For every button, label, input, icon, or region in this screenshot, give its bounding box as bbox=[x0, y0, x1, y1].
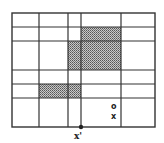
shaded-region-2 bbox=[68, 41, 121, 70]
shaded-region-3 bbox=[39, 84, 81, 98]
circle-marker-label: o bbox=[111, 102, 117, 111]
query-point-label: x' bbox=[74, 131, 82, 141]
shaded-region-1 bbox=[81, 27, 121, 41]
shaded-regions bbox=[39, 27, 121, 98]
query-point-icon bbox=[79, 125, 83, 129]
grid-diagram: x' o x bbox=[0, 0, 164, 143]
cross-marker-label: x bbox=[111, 112, 117, 121]
data-points bbox=[79, 125, 83, 129]
